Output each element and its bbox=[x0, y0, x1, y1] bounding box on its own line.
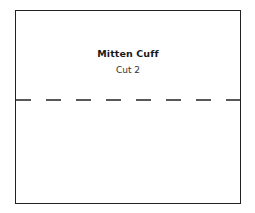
piece-title: Mitten Cuff bbox=[16, 48, 240, 59]
cut-instruction: Cut 2 bbox=[16, 65, 240, 75]
pattern-piece-outline: Mitten Cuff Cut 2 bbox=[15, 10, 241, 204]
fold-line bbox=[16, 99, 240, 101]
